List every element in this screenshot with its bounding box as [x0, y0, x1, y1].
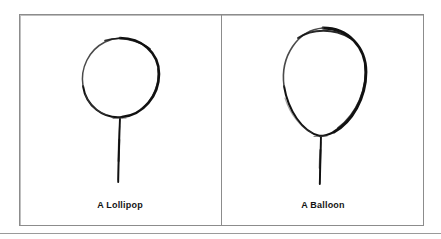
panel-balloon: A Balloon [222, 14, 424, 226]
page-horizontal-rule [0, 233, 441, 234]
panel-lollipop: A Lollipop [19, 14, 221, 226]
balloon-string-icon [314, 136, 327, 184]
balloon-body-icon [283, 28, 366, 136]
balloon-caption: A Balloon [222, 200, 424, 210]
lollipop-sketch [19, 14, 221, 194]
lollipop-drawing-svg [19, 14, 221, 194]
lollipop-head-icon [82, 38, 159, 117]
lollipop-caption: A Lollipop [19, 200, 221, 210]
figure-root: A Lollipop [0, 0, 441, 239]
balloon-sketch [222, 14, 424, 194]
lollipop-stick-icon [113, 118, 126, 182]
balloon-drawing-svg [222, 14, 424, 194]
